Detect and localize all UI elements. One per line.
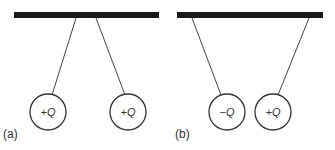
- string-left: [52, 18, 76, 95]
- string-left: [192, 18, 221, 95]
- panel-label: (a): [3, 127, 18, 141]
- charge-label: +Q: [266, 106, 281, 118]
- charge-label: +Q: [41, 106, 56, 118]
- charge-label: +Q: [121, 106, 136, 118]
- string-right: [96, 18, 125, 95]
- support-bar: [14, 12, 159, 18]
- string-right: [278, 18, 309, 95]
- panel-label: (b): [175, 127, 190, 141]
- panel-b: −Q +Q (b): [175, 12, 323, 141]
- charged-spheres-diagram: +Q +Q (a) −Q +Q (b): [0, 0, 335, 150]
- support-bar: [177, 12, 323, 18]
- charge-label: −Q: [220, 106, 235, 118]
- panel-a: +Q +Q (a): [3, 12, 159, 141]
